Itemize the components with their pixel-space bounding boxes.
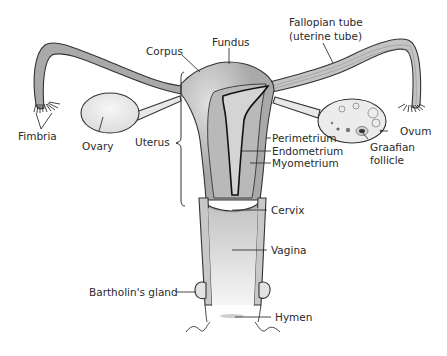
label-hymen: Hymen <box>275 311 312 323</box>
label-vagina: Vagina <box>271 244 306 256</box>
label-endometrium: Endometrium <box>272 145 343 157</box>
label-bartholins-gland: Bartholin's gland <box>89 286 178 298</box>
label-ovum: Ovum <box>400 125 431 137</box>
label-perimetrium: Perimetrium <box>272 132 337 144</box>
right-bartholins-gland <box>259 282 270 298</box>
label-graafian-follicle-line2: follicle <box>370 154 404 166</box>
left-bartholins-gland <box>195 282 206 299</box>
label-cervix: Cervix <box>271 204 304 216</box>
label-uterus: Uterus <box>135 136 170 148</box>
uterus <box>181 62 274 200</box>
right-ovarian-ligament <box>273 97 320 118</box>
label-fimbria: Fimbria <box>18 130 57 142</box>
left-ovary <box>81 93 139 133</box>
female-reproductive-diagram: Fallopian tube (uterine tube) Fundus Cor… <box>0 0 447 356</box>
right-fimbria-icon <box>398 104 425 112</box>
label-fallopian-tube-line2: (uterine tube) <box>289 30 362 42</box>
left-ovarian-ligament <box>136 96 181 120</box>
graafian-follicle-icon <box>356 127 368 136</box>
label-corpus: Corpus <box>146 45 183 57</box>
label-graafian-follicle-line1: Graafian <box>370 141 415 153</box>
vagina <box>186 198 280 332</box>
label-myometrium: Myometrium <box>272 157 339 169</box>
label-fallopian-tube-line1: Fallopian tube <box>289 16 363 28</box>
label-ovary: Ovary <box>82 140 113 152</box>
label-fundus: Fundus <box>212 36 250 48</box>
